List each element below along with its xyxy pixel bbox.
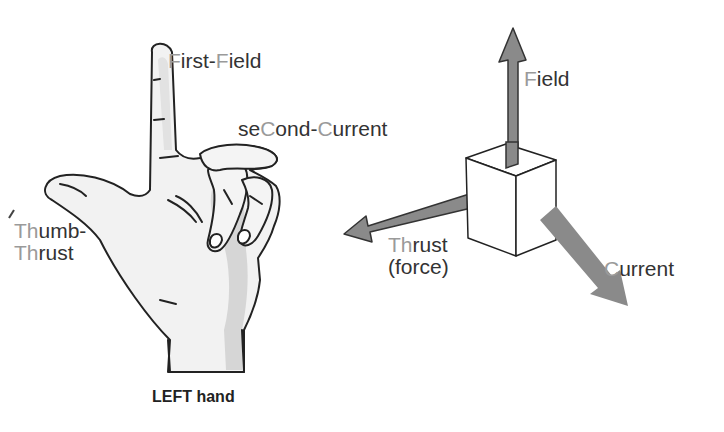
highlight-letter: C xyxy=(317,117,332,140)
label-force: (force) xyxy=(388,256,449,278)
highlight-letter: C xyxy=(260,117,275,140)
label-first-field: First-Field xyxy=(168,50,261,72)
field-arrow-base xyxy=(506,142,518,168)
label-field: Field xyxy=(524,68,570,90)
label-current: Current xyxy=(604,258,674,280)
highlight-letter: F xyxy=(524,67,537,90)
tick-mark xyxy=(9,210,14,218)
label-thrust: Thrust (force) xyxy=(388,234,449,278)
highlight-letter: F xyxy=(216,49,229,72)
diagram-canvas xyxy=(0,0,724,432)
highlight-letter: Th xyxy=(14,241,39,264)
highlight-letter: Th xyxy=(14,219,39,242)
label-thumb-thrust: Thumb- Thrust xyxy=(14,220,86,264)
highlight-letter: C xyxy=(604,257,619,280)
caption-left-hand: LEFT hand xyxy=(152,388,235,406)
left-hand-illustration xyxy=(45,44,280,372)
current-arrow xyxy=(540,206,628,306)
label-second-current: seCond-Current xyxy=(238,118,387,140)
highlight-letter: Th xyxy=(388,233,413,256)
highlight-letter: F xyxy=(168,49,181,72)
